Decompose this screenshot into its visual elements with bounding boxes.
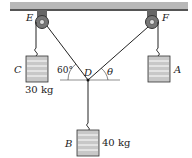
cables [36, 22, 158, 123]
ceiling [10, 2, 188, 11]
label-f: F [161, 12, 170, 23]
pulley-f [146, 10, 159, 29]
mass-b-label: 40 kg [102, 137, 131, 148]
pulley-system-diagram: E F C A B D 30 kg 40 kg 60° θ [0, 0, 192, 158]
knot-d [87, 79, 90, 82]
weight-a [148, 56, 170, 82]
label-e: E [25, 12, 34, 23]
mass-c-label: 30 kg [25, 84, 54, 95]
weight-b [77, 130, 99, 156]
angle-theta-label: θ [107, 66, 113, 77]
label-b: B [64, 138, 72, 149]
label-d: D [83, 67, 92, 78]
angle-60-label: 60° [57, 65, 73, 75]
weight-c [26, 56, 48, 82]
label-c: C [14, 64, 22, 75]
pulley-e [36, 10, 49, 29]
label-a: A [173, 64, 181, 75]
